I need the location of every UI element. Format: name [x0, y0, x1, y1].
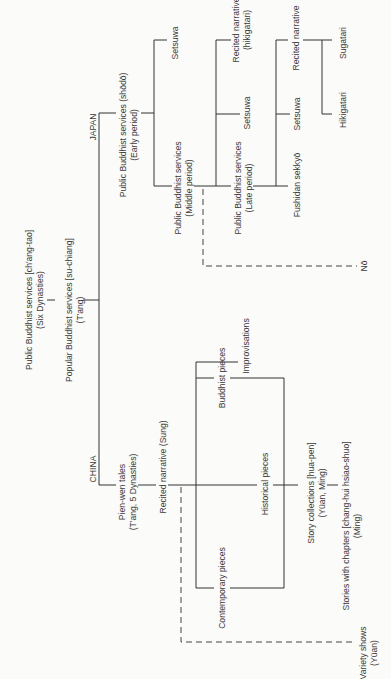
china-improvisations: Improvisations	[241, 318, 252, 373]
japan-sugatari: Sugatari	[338, 27, 349, 59]
china-recited-sung: Recited narrative (Sung)	[158, 420, 169, 513]
china-story-collections: Story collections [hua-pen](Yüan, Ming)	[306, 442, 327, 543]
japan-early-setsuwa: Setsuwa	[170, 27, 181, 60]
japan-fushidan-sekkyo: Fushidan sekkyō	[292, 153, 303, 218]
japan-hikigatari: Hikigatari	[338, 92, 349, 128]
japan-label: JAPAN	[88, 113, 99, 140]
china-historical-pieces: Historical pieces	[260, 453, 271, 516]
china-stories-with-chapters: Stories with chapters [chang-hui hsiao-s…	[341, 441, 362, 610]
japan-late-period: Public Buddhist services(Late period)	[233, 141, 254, 234]
root-chang-tao: Public Buddhist services [ch'ang-tao](Si…	[24, 230, 45, 370]
japan-middle-period: Public Buddhist services(Middle period)	[173, 141, 194, 234]
china-variety-shows: Variety shows(Yüan)	[358, 627, 379, 679]
japan-late-recited: Recited narrative	[291, 6, 302, 71]
japan-early-period: Public Buddhist services (shōdō)(Early p…	[118, 73, 139, 198]
japan-late-setsuwa: Setsuwa	[292, 98, 303, 131]
japan-no: Nō	[359, 261, 370, 272]
china-contemporary-pieces: Contemporary pieces	[217, 547, 228, 629]
japan-middle-setsuwa: Setsuwa	[242, 97, 253, 130]
japan-middle-recited: Recited narrative(hikigatari)	[231, 0, 252, 62]
china-buddhist-pieces: Buddhist pieces	[217, 348, 228, 409]
china-label: CHINA	[88, 456, 99, 483]
popular-su-chiang: Popular Buddhist services [su-chiang](T'…	[64, 238, 85, 382]
china-pien-wen: Pien-wen tales(T'ang, 5 Dynasties)	[117, 454, 138, 531]
